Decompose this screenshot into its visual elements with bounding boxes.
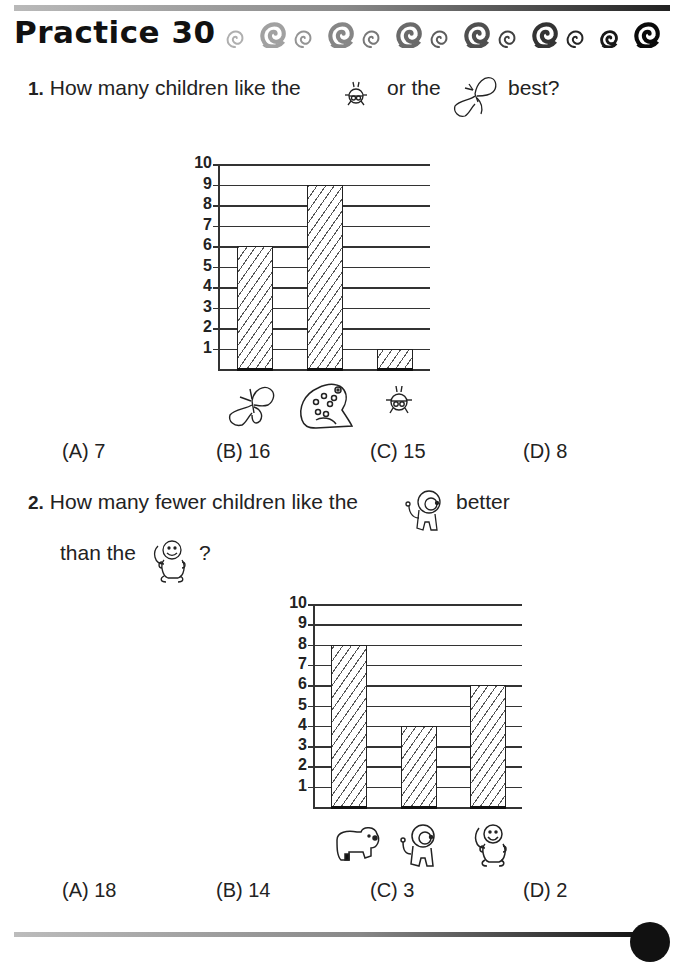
bear-category-icon [331, 822, 383, 866]
butterfly-category-icon [226, 383, 278, 429]
gridline [213, 164, 430, 166]
y-tick-label: 6 [188, 236, 212, 254]
q2-choice-a[interactable]: (A) 18 [62, 879, 116, 902]
swirl-icon [566, 22, 600, 48]
page-number-badge [630, 922, 670, 962]
swirl-icon [600, 22, 634, 48]
y-tick-label: 10 [188, 154, 212, 172]
swirl-icon [226, 22, 260, 48]
y-tick-label: 5 [283, 696, 307, 714]
q1-choice-a[interactable]: (A) 7 [62, 440, 105, 463]
y-tick-label: 9 [188, 175, 212, 193]
q1-choice-d[interactable]: (D) 8 [523, 440, 567, 463]
question-text-end: best? [508, 76, 559, 100]
page-title: Practice 30 [14, 14, 216, 50]
bar-butterfly [237, 246, 273, 370]
y-tick-label: 3 [188, 298, 212, 316]
question-text: How many fewer children like the [50, 490, 358, 513]
y-tick-label: 4 [188, 277, 212, 295]
lion-icon [401, 488, 445, 534]
question-mark: ? [199, 541, 211, 565]
bar-base [470, 806, 506, 809]
question-text-line2: than the [60, 541, 136, 565]
bar-bear [331, 645, 367, 808]
y-tick-label: 1 [283, 777, 307, 795]
question-1: 1.How many children like the [28, 76, 301, 100]
question-text: How many children like the [50, 76, 301, 99]
q1-choice-c[interactable]: (C) 15 [370, 440, 426, 463]
q2-choice-d[interactable]: (D) 2 [523, 879, 567, 902]
top-rule [14, 5, 670, 11]
y-tick-label: 8 [283, 635, 307, 653]
question-number: 1. [28, 78, 44, 99]
swirl-icon [362, 22, 396, 48]
q1-choice-b[interactable]: (B) 16 [216, 440, 270, 463]
swirl-icon [396, 22, 430, 48]
swirl-decoration-row [226, 22, 668, 48]
bar-ladybug [377, 349, 413, 371]
y-tick-label: 5 [188, 257, 212, 275]
gridline [308, 604, 522, 606]
lion-category-icon [399, 822, 439, 868]
q2-choice-b[interactable]: (B) 14 [216, 879, 270, 902]
question-2: 2.How many fewer children like the [28, 490, 358, 514]
y-tick-label: 6 [283, 675, 307, 693]
bar-monkey [470, 685, 506, 808]
y-tick-label: 7 [188, 216, 212, 234]
q2-choice-c[interactable]: (C) 3 [370, 879, 414, 902]
butterfly-icon [451, 74, 501, 120]
y-tick-label: 2 [283, 756, 307, 774]
bar-base [377, 368, 413, 371]
bar-base [401, 806, 437, 809]
swirl-icon [328, 22, 362, 48]
y-tick-label: 3 [283, 736, 307, 754]
monkey-category-icon [467, 822, 513, 868]
y-tick-label: 9 [283, 614, 307, 632]
y-tick-label: 1 [188, 339, 212, 357]
gridline [308, 624, 522, 626]
y-tick-label: 2 [188, 318, 212, 336]
swirl-icon [634, 22, 668, 48]
swirl-icon [260, 22, 294, 48]
y-tick-label: 7 [283, 655, 307, 673]
swirl-icon [464, 22, 498, 48]
bar-base [331, 806, 367, 809]
swirl-icon [294, 22, 328, 48]
question-text-middle: or the [387, 76, 441, 100]
swirl-icon [532, 22, 566, 48]
y-tick-label: 10 [283, 594, 307, 612]
y-tick-label: 4 [283, 716, 307, 734]
bottom-rule [14, 932, 644, 937]
ladybug-category-icon [385, 384, 413, 416]
y-tick-label: 8 [188, 195, 212, 213]
question-number: 2. [28, 492, 44, 513]
bar-base [307, 368, 343, 371]
bar-lion [401, 726, 437, 808]
bar-frog [307, 185, 343, 371]
ladybug-icon [343, 80, 369, 108]
bar-base [237, 368, 273, 371]
swirl-icon [430, 22, 464, 48]
swirl-icon [498, 22, 532, 48]
monkey-icon [146, 538, 192, 584]
frog-category-icon [296, 380, 356, 432]
question-text-end-1: better [456, 490, 510, 514]
